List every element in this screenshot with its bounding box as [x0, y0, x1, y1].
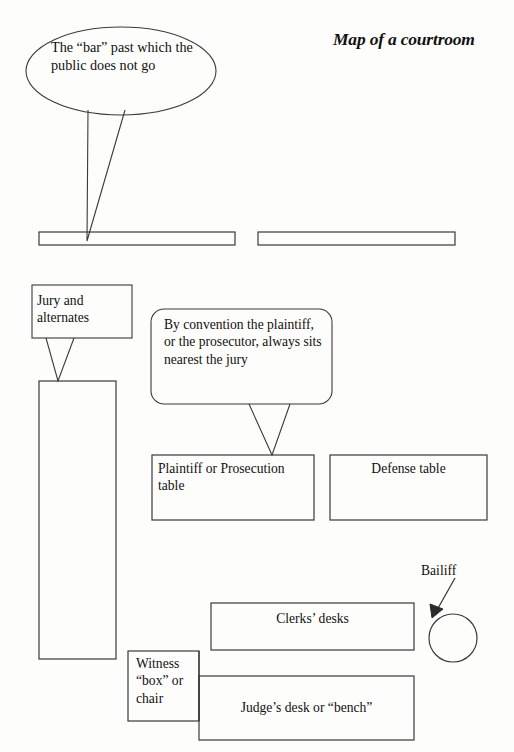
jury-callout-tail — [46, 338, 74, 381]
bailiff-position-circle — [429, 614, 477, 662]
jury-callout-label: Jury and alternates — [37, 292, 132, 327]
gallery-bench-left — [39, 232, 235, 245]
courtroom-map-page: Map of a courtroom The “bar” past which … — [0, 0, 514, 752]
defense-table-label: Defense table — [330, 460, 487, 477]
page-title: Map of a courtroom — [333, 28, 475, 50]
bar-callout-tail — [87, 110, 125, 241]
witness-box-label: Witness “box” or chair — [136, 655, 198, 707]
gallery-bench-right — [258, 232, 455, 245]
plaintiff-callout-tail — [249, 404, 290, 455]
courtroom-diagram-vectors — [0, 0, 514, 752]
bailiff-arrow-line — [437, 578, 455, 610]
judge-desk-label: Judge’s desk or “bench” — [199, 699, 414, 716]
bailiff-arrow-head — [430, 604, 443, 618]
bailiff-label: Bailiff — [421, 562, 456, 579]
plaintiff-table-label: Plaintiff or Prosecution table — [158, 460, 308, 495]
jury-box — [39, 381, 116, 659]
bar-callout-label: The “bar” past which the public does not… — [51, 38, 201, 74]
clerks-desks-label: Clerks’ desks — [211, 610, 414, 627]
plaintiff-callout-label: By convention the plaintiff, or the pros… — [164, 316, 324, 368]
